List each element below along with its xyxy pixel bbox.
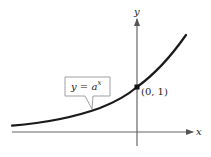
point-marker: [135, 85, 140, 90]
point-label: (0, 1): [141, 86, 168, 97]
y-axis-label: y: [133, 6, 140, 17]
function-label: y = ax: [70, 79, 101, 92]
x-axis-label: x: [196, 126, 202, 137]
exponential-graph: x y (0, 1) y = ax: [0, 0, 211, 157]
